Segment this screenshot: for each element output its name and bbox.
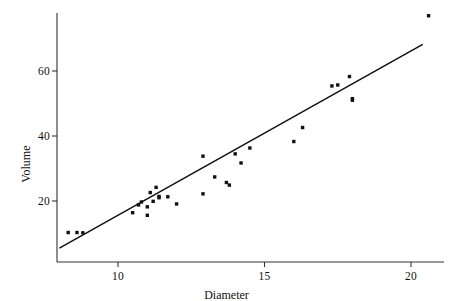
y-axis-ticks	[52, 71, 57, 201]
data-point	[348, 75, 351, 78]
x-tick-label: 15	[259, 270, 271, 282]
x-tick-label: 20	[405, 270, 417, 282]
data-point	[228, 183, 231, 186]
y-tick-label: 20	[18, 195, 50, 207]
data-point	[166, 195, 169, 198]
data-point	[146, 205, 149, 208]
data-point	[201, 154, 204, 157]
data-point	[149, 191, 152, 194]
data-point	[234, 152, 237, 155]
scatter-plot-figure: 204060 101520 Volume Diameter	[0, 0, 453, 301]
y-tick-label: 40	[18, 130, 50, 142]
data-point	[248, 146, 251, 149]
data-point	[330, 84, 333, 87]
data-point	[151, 200, 154, 203]
data-point	[427, 14, 430, 17]
data-point	[137, 203, 140, 206]
x-axis-title: Diameter	[0, 288, 453, 301]
data-point	[66, 231, 69, 234]
data-point	[213, 175, 216, 178]
x-tick-label: 10	[112, 270, 124, 282]
data-point	[154, 186, 157, 189]
data-point	[201, 192, 204, 195]
data-point	[225, 181, 228, 184]
plot-canvas	[0, 0, 453, 301]
data-point	[175, 202, 178, 205]
data-point	[146, 214, 149, 217]
data-point	[351, 99, 354, 102]
data-point	[75, 231, 78, 234]
data-point	[81, 231, 84, 234]
axes-lines	[57, 13, 444, 262]
y-tick-label: 60	[18, 65, 50, 77]
data-point	[157, 195, 160, 198]
data-point-series	[66, 14, 430, 234]
data-point	[292, 140, 295, 143]
data-point	[239, 161, 242, 164]
x-axis-ticks	[118, 262, 411, 267]
data-point	[131, 211, 134, 214]
data-point	[336, 83, 339, 86]
data-point	[140, 200, 143, 203]
data-point	[301, 126, 304, 129]
regression-line	[59, 44, 422, 248]
fit-line	[59, 44, 422, 248]
